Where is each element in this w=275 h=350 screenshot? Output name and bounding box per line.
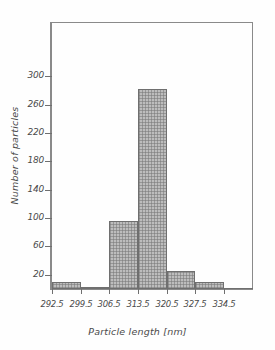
x-axis-tick-label: 313.5 (127, 299, 150, 309)
y-axis-tick-label: 220 (27, 127, 44, 137)
histogram-figure: 2060100140180220260300 292.5299.5306.531… (0, 0, 275, 350)
x-axis-tick-label: 292.5 (41, 299, 64, 309)
y-axis-tick-label: 180 (27, 155, 44, 165)
x-axis-tick (138, 288, 139, 294)
x-axis-tick (167, 288, 168, 294)
x-axis-tick-label: 299.5 (70, 299, 93, 309)
y-axis-tick (45, 133, 52, 134)
x-axis-tick (109, 288, 110, 294)
x-axis-tick (224, 288, 225, 294)
y-axis-tick-label: 100 (27, 212, 44, 222)
y-axis-tick (45, 218, 52, 219)
histogram-bar (109, 221, 138, 289)
y-axis-tick-label: 300 (27, 70, 44, 80)
x-axis-tick (195, 288, 196, 294)
y-axis-tick (45, 190, 52, 191)
y-axis-tick (45, 246, 52, 247)
y-axis-tick (45, 275, 52, 276)
x-axis-title: Particle length [nm] (0, 326, 275, 337)
y-axis-tick (45, 76, 52, 77)
y-axis-tick (45, 161, 52, 162)
x-axis-tick (52, 288, 53, 294)
x-axis-line (52, 288, 253, 289)
y-axis-tick-label: 60 (33, 240, 44, 250)
plot-data-area (52, 62, 224, 289)
y-axis-tick-label: 260 (27, 99, 44, 109)
histogram-bar (167, 271, 196, 289)
x-axis-tick-label: 334.5 (213, 299, 236, 309)
y-axis-title: Number of particles (9, 76, 20, 236)
x-axis-tick-label: 327.5 (184, 299, 207, 309)
x-axis-tick-label: 320.5 (156, 299, 179, 309)
x-axis-tick-label: 306.5 (98, 299, 121, 309)
histogram-bar (138, 89, 167, 289)
y-axis-tick (45, 105, 52, 106)
y-axis-tick-label: 20 (33, 269, 44, 279)
x-axis-tick (81, 288, 82, 294)
y-axis-tick-label: 140 (27, 184, 44, 194)
